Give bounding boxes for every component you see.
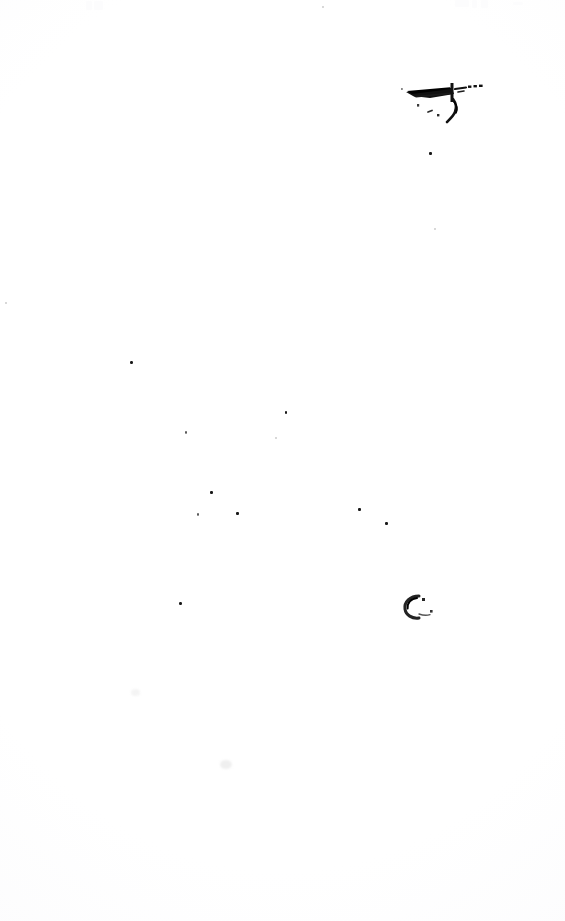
ink-mark-upper-right-icon <box>400 72 492 130</box>
scan-speck <box>275 437 277 439</box>
ghost-text-fragment <box>86 1 92 10</box>
paper-background <box>0 0 565 921</box>
scan-speck <box>429 152 432 155</box>
scan-speck <box>179 602 182 605</box>
scan-speck <box>197 513 199 516</box>
ghost-text-fragment <box>94 1 103 10</box>
scanned-page <box>0 0 565 921</box>
paper-smudge <box>220 760 232 769</box>
ghost-text-fragment <box>513 2 523 5</box>
paper-smudge <box>131 689 140 696</box>
scan-speck <box>322 6 324 8</box>
ghost-text-fragment <box>481 0 488 8</box>
scan-speck <box>185 431 187 434</box>
scan-speck <box>285 411 287 414</box>
ghost-text-fragment <box>472 0 477 8</box>
scan-speck <box>358 508 361 511</box>
scan-speck <box>130 361 133 364</box>
ink-mark-lower-right-icon <box>399 590 447 624</box>
scan-speck <box>434 228 436 230</box>
scan-speck <box>385 522 388 525</box>
ghost-text-fragment <box>455 0 469 7</box>
scan-speck <box>210 491 213 494</box>
scan-speck <box>236 512 239 515</box>
scan-speck <box>5 302 7 304</box>
